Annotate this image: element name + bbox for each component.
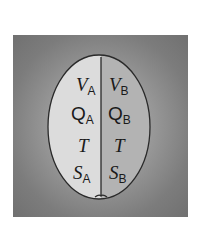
svg-text:T: T: [114, 135, 126, 156]
system-diagram: VA QA T SA VB QB T SB: [0, 0, 209, 235]
svg-text:T: T: [78, 135, 90, 156]
